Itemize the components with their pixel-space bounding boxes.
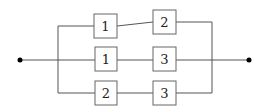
block: 2 [95, 81, 117, 105]
block-label: 3 [160, 52, 168, 67]
block-label: 2 [102, 86, 110, 101]
reliability-diagram: 1 2 1 3 2 3 [0, 0, 265, 112]
path-bottom: 2 3 [58, 81, 212, 105]
path-top: 1 2 [58, 10, 212, 38]
block-label: 1 [102, 52, 110, 67]
block: 3 [153, 81, 176, 105]
block-label: 1 [101, 19, 109, 34]
path-middle: 1 3 [58, 47, 212, 71]
input-terminal-dot [18, 58, 23, 63]
output-terminal-dot [247, 58, 252, 63]
block: 1 [95, 47, 117, 71]
block-label: 2 [160, 15, 168, 30]
block: 2 [153, 10, 176, 34]
block: 3 [153, 47, 176, 71]
block: 1 [94, 14, 117, 38]
block-label: 3 [160, 86, 168, 101]
